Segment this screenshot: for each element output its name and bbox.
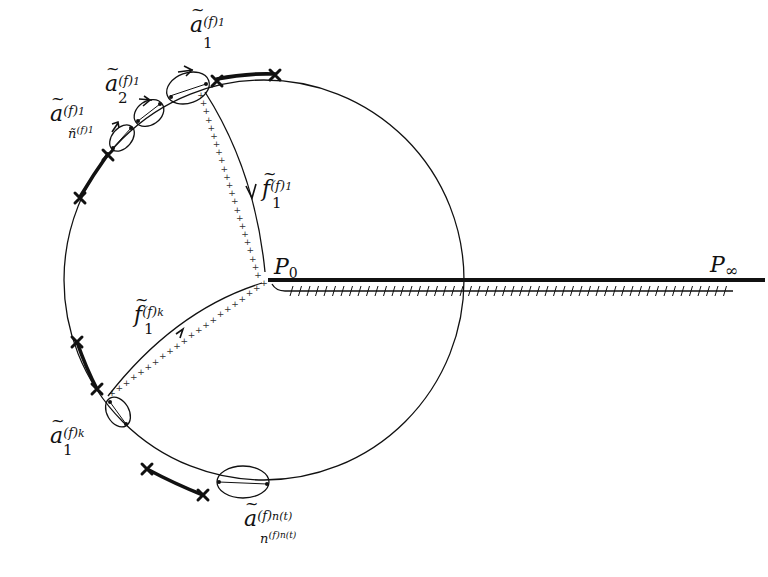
label-a1-1: a(f)1 1: [190, 14, 225, 36]
label-an-1-sub: ñ(f)1: [68, 125, 94, 140]
ellipse-hatch-lines: [110, 84, 267, 484]
arrow-f1-1: [246, 184, 256, 198]
ray-hatched-line: [272, 284, 733, 291]
plus-lines: ++++++++++++++++++++++++++++++++++++++++…: [108, 90, 268, 398]
thick-arcs: [77, 74, 275, 495]
diagram-canvas: ++++++++++++++++++++++++++++++++++++++++…: [0, 0, 768, 577]
label-p0: P0: [274, 256, 298, 280]
label-pinf: P∞: [710, 254, 738, 279]
ellipses: [100, 66, 269, 498]
label-an-1: a(f)1 ñ(f)1: [50, 103, 85, 125]
label-an-t-sub: n(f)n(t): [260, 530, 296, 545]
ellipse-dots: [108, 82, 269, 486]
label-an-t: a(f)n(t) n(f)n(t): [244, 508, 292, 530]
curve-f1-1: [205, 92, 265, 272]
label-a2-1: a(f)1 2: [105, 73, 140, 95]
cross-markers: [72, 70, 280, 500]
label-a1-k: a(f)k 1: [50, 425, 85, 447]
label-f1-k: f(f)k 1: [134, 304, 164, 326]
label-f1-1: f(f)1 1: [262, 178, 292, 200]
